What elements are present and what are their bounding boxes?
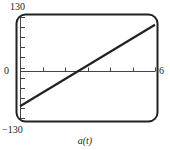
y-max-label: 130 xyxy=(10,2,25,12)
data-line-a-t xyxy=(20,25,155,107)
plot-frame xyxy=(17,15,158,122)
y-min-label: −130 xyxy=(2,125,23,135)
x-axis-ticks xyxy=(44,68,156,72)
x-origin-label: 0 xyxy=(4,66,9,76)
chart xyxy=(0,0,170,150)
x-axis-title: a(t) xyxy=(0,136,170,146)
x-max-label: 6 xyxy=(159,66,164,76)
